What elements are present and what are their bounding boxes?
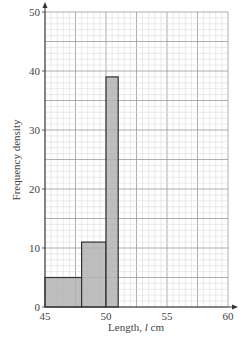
y-tick-label: 20 — [29, 183, 41, 195]
y-tick-label: 50 — [29, 6, 41, 18]
axes — [43, 2, 239, 310]
y-tick-label: 40 — [29, 65, 41, 77]
histogram-bar — [82, 242, 106, 307]
x-tick-label: 45 — [40, 310, 52, 322]
y-tick-label: 30 — [29, 124, 41, 136]
x-tick-label: 60 — [223, 310, 235, 322]
grid — [45, 12, 228, 307]
y-axis-arrow-icon — [43, 2, 48, 8]
histogram-chart: 0102030405045505560 Length, l cm Frequen… — [0, 0, 243, 337]
y-axis-label: Frequency density — [10, 119, 22, 200]
y-tick-label: 10 — [29, 242, 41, 254]
x-axis-arrow-icon — [232, 305, 238, 310]
histogram-bar — [106, 77, 118, 307]
x-axis-label: Length, l cm — [108, 321, 164, 333]
histogram-bar — [45, 278, 82, 308]
